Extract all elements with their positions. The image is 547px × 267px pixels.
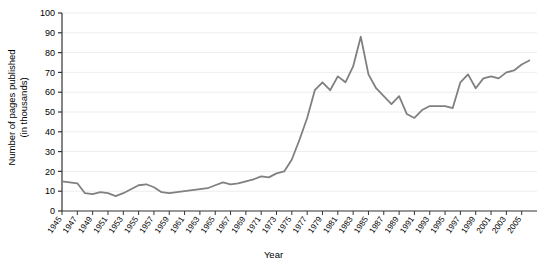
y-axis-title: Number of pages published (in thousands) (2, 0, 32, 215)
x-axis-tick-label: 1987 (368, 215, 386, 235)
x-axis-tick-label: 1999 (460, 215, 478, 235)
y-axis-tick-label: 70 (45, 68, 55, 78)
x-axis-tick-label: 2001 (475, 215, 493, 235)
x-axis-tick-label: 2003 (490, 215, 508, 235)
y-axis-tick-label: 100 (40, 8, 55, 18)
y-axis-title-line1: Number of pages published (6, 49, 17, 165)
chart-figure: Number of pages published (in thousands)… (0, 0, 547, 267)
x-axis-tick-label: 1975 (276, 215, 294, 235)
x-axis-tick-label: 1953 (107, 215, 125, 235)
series-polyline (62, 37, 529, 196)
x-axis-tick-label: 1989 (383, 215, 401, 235)
x-axis-title: Year (0, 249, 547, 260)
x-axis-tick-label: 1981 (322, 215, 340, 235)
x-axis-tick-label: 1985 (352, 215, 370, 235)
x-axis-tick-label: 1963 (184, 215, 202, 235)
y-axis-tick-label: 60 (45, 87, 55, 97)
line-chart-plot: 0102030405060708090100 19451947194919511… (0, 0, 547, 267)
y-axis-tick-label: 50 (45, 107, 55, 117)
x-axis-tick-label: 1993 (414, 215, 432, 235)
x-axis-tick-label: 1995 (429, 215, 447, 235)
y-axis-tick-label: 20 (45, 167, 55, 177)
x-axis-tick-label: 2005 (505, 215, 523, 235)
x-axis-tick-label: 1957 (138, 215, 156, 235)
x-axis-tick-label: 1997 (444, 215, 462, 235)
x-axis-tick-label: 1973 (260, 215, 278, 235)
x-axis-tick-label: 1961 (168, 215, 186, 235)
x-axis-tick-label: 1945 (46, 215, 64, 235)
y-axis: 0102030405060708090100 (40, 8, 62, 216)
data-series-line (62, 37, 529, 196)
x-axis-tick-label: 1965 (199, 215, 217, 235)
x-axis: 1945194719491951195319551957195919611963… (46, 211, 537, 235)
x-axis-tick-label: 1947 (61, 215, 79, 235)
x-axis-tick-label: 1955 (122, 215, 140, 235)
x-axis-tick-label: 1977 (291, 215, 309, 235)
y-axis-tick-label: 80 (45, 48, 55, 58)
y-axis-tick-label: 40 (45, 127, 55, 137)
x-axis-tick-label: 1983 (337, 215, 355, 235)
x-axis-tick-label: 1969 (230, 215, 248, 235)
y-axis-tick-label: 90 (45, 28, 55, 38)
x-axis-tick-label: 1967 (214, 215, 232, 235)
y-axis-tick-label: 30 (45, 147, 55, 157)
y-axis-title-line2: (in thousands) (17, 49, 29, 165)
x-axis-tick-label: 1979 (306, 215, 324, 235)
y-axis-tick-label: 0 (50, 206, 55, 216)
x-axis-tick-label: 1951 (92, 215, 110, 235)
x-axis-tick-label: 1959 (153, 215, 171, 235)
x-axis-tick-label: 1971 (245, 215, 263, 235)
x-axis-tick-label: 1991 (398, 215, 416, 235)
gridlines (62, 13, 537, 191)
y-axis-tick-label: 10 (45, 186, 55, 196)
x-axis-tick-label: 1949 (76, 215, 94, 235)
